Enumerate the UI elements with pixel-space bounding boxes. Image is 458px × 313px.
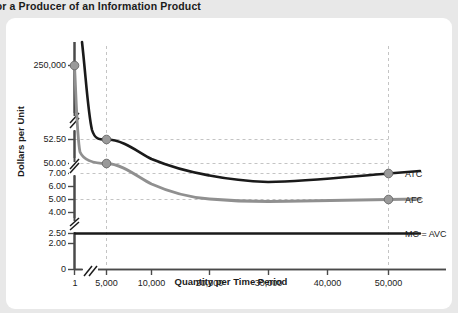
curve-label-mc-avc: MC = AVC [405, 229, 447, 239]
axis-lines [75, 42, 447, 270]
x-tick-label-50000: 50,000 [363, 278, 414, 288]
y-tick-label-250: 2.50 [4, 228, 66, 238]
marker-afc-50000-500 [384, 195, 393, 204]
marker-atc-5000-5250 [102, 135, 111, 144]
y-tick-label-600: 6.00 [4, 181, 66, 191]
y-tick-label-500: 5.00 [4, 194, 66, 204]
x-axis-title: Quantity per Time Period [106, 276, 356, 287]
marker-atc-50000-700 [384, 169, 393, 178]
y-tick-label-5000: 50.00 [4, 158, 66, 168]
figure-title: for a Producer of an Information Product [0, 0, 322, 14]
x-axis-ticks [75, 270, 389, 276]
marker-afc-1-250000 [70, 61, 79, 70]
curve-label-atc: ATC [405, 169, 422, 179]
plot-svg [6, 18, 452, 309]
y-tick-label-250000: 250,000 [4, 60, 66, 70]
curve-atc [82, 42, 420, 182]
chart-card: 250,000 52.50 50.00 7.00 6.00 5.00 4.00 … [6, 18, 452, 309]
plot-area: 250,000 52.50 50.00 7.00 6.00 5.00 4.00 … [6, 18, 452, 309]
curve-label-afc: AFC [405, 195, 423, 205]
y-axis-title: Dollars per Unit [15, 92, 26, 192]
gridlines [75, 46, 389, 265]
marker-afc-5000-5000 [102, 159, 111, 168]
y-tick-label-5250: 52.50 [4, 134, 66, 144]
y-tick-label-200: 2.00 [4, 238, 66, 248]
figure-root: for a Producer of an Information Product [0, 0, 458, 313]
y-tick-label-700: 7.00 [4, 168, 66, 178]
y-tick-label-0: 0 [4, 264, 66, 274]
data-point-markers [70, 61, 393, 204]
y-tick-label-400: 4.00 [4, 207, 66, 217]
